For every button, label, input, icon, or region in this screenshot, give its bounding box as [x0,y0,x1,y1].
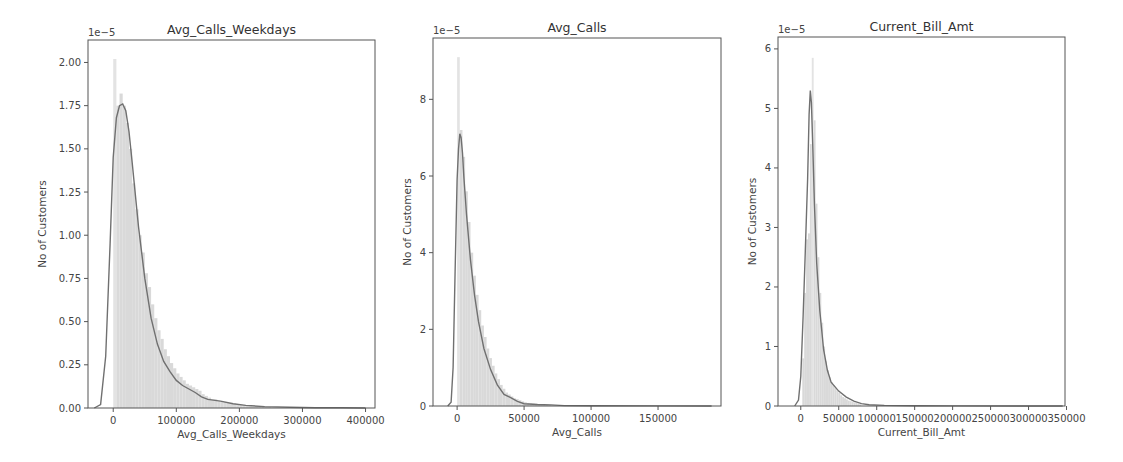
y-tick-label: 8 [420,94,426,105]
histogram-bar [167,356,170,408]
y-axis-ticks: 02468 [420,94,433,412]
x-axis-label: Avg_Calls_Weekdays [177,428,286,441]
x-tick-label: 50000 [508,413,540,424]
histogram-bar [848,401,850,406]
y-tick-label: 2 [765,281,771,292]
histogram-bar [202,394,205,408]
x-tick-label: 300000 [283,415,321,426]
x-axis-label: Current_Bill_Amt [878,426,965,439]
x-tick-label: 150000 [896,413,934,424]
histogram-bar [120,94,123,408]
y-tick-label: 2 [420,324,426,335]
x-tick-label: 250000 [971,413,1009,424]
y-tick-label: 6 [765,43,771,54]
y-tick-label: 0.25 [59,359,81,370]
histogram-bar [835,388,837,406]
histogram-bars [113,59,271,408]
x-tick-label: 350000 [1047,413,1085,424]
y-tick-label: 2.00 [59,57,81,68]
x-tick-label: 50000 [823,413,855,424]
histogram-bar [161,339,164,408]
histogram-bar [833,385,835,406]
histogram-bar [836,391,838,406]
histogram-bar [497,379,500,406]
chart-title: Current_Bill_Amt [869,19,973,34]
histogram-bar [852,402,854,406]
y-tick-label: 1.75 [59,100,81,111]
histogram-bar [808,233,810,406]
y-tick-label: 6 [420,171,426,182]
histogram-bar [173,368,176,408]
histogram-bar [854,402,856,406]
histogram-bar [802,358,804,406]
histogram-bar [217,401,220,408]
x-tick-label: 0 [454,413,460,424]
subplot-avg-calls-weekdays: 0.000.250.500.751.001.251.501.752.00 010… [36,22,385,441]
y-tick-label: 0.75 [59,273,81,284]
histogram-bar [460,130,463,406]
y-axis-ticks: 0.000.250.500.751.001.251.501.752.00 [59,57,88,414]
x-tick-label: 300000 [1009,413,1047,424]
y-tick-label: 1 [765,341,771,352]
histogram-bar [500,385,503,406]
y-tick-label: 4 [765,162,771,173]
y-tick-label: 1.50 [59,143,81,154]
y-axis-label: No of Customers [746,178,758,266]
histogram-bar [846,399,848,406]
histogram-bar [129,149,132,408]
histogram-bar [132,183,135,408]
histogram-bar [804,293,806,406]
y-tick-label: 0 [420,401,426,412]
x-tick-label: 200000 [934,413,972,424]
x-axis-ticks: 0100000200000300000400000 [110,408,385,426]
histogram-bar [176,373,179,408]
y-tick-label: 1.00 [59,230,81,241]
x-tick-label: 100000 [858,413,896,424]
histogram-bar [457,57,460,406]
y-tick-label: 1.25 [59,187,81,198]
x-tick-label: 0 [798,413,804,424]
y-tick-label: 4 [420,247,426,258]
y-axis-label: No of Customers [36,180,48,268]
histogram-bar [840,395,842,406]
histogram-bar [810,144,812,406]
histogram-bar [116,106,119,408]
y-axis-label: No of Customers [401,178,413,266]
subplot-current-bill-amt: 0123456 05000010000015000020000025000030… [746,19,1086,439]
y-tick-label: 3 [765,222,771,233]
figure: 0.000.250.500.751.001.251.501.752.00 010… [0,0,1123,462]
y-offset-label: 1e−5 [433,25,460,36]
histogram-bar [844,398,846,406]
histogram-bar [113,59,116,408]
histogram-bar [814,120,816,406]
y-tick-label: 0 [765,401,771,412]
histogram-bar [806,239,808,406]
y-offset-label: 1e−5 [778,24,805,35]
histogram-bar [179,377,182,408]
histogram-bar [198,391,201,408]
y-tick-label: 0.00 [59,403,81,414]
histogram-bar [831,382,833,406]
chart-title: Avg_Calls [547,20,606,35]
histogram-bar [195,389,198,408]
histogram-bar [492,366,495,406]
histogram-bar [838,393,840,406]
x-tick-label: 100000 [157,415,195,426]
histogram-bar [126,123,129,408]
histogram-bar [123,106,126,408]
histogram-bars [457,57,551,406]
x-tick-label: 400000 [346,415,384,426]
histogram-bar [170,363,173,408]
kde-curve [795,91,1063,406]
y-tick-label: 0.50 [59,316,81,327]
histogram-bar [135,209,138,408]
y-axis-ticks: 0123456 [765,43,778,411]
x-tick-label: 200000 [220,415,258,426]
y-offset-label: 1e−5 [88,27,115,38]
chart-title: Avg_Calls_Weekdays [167,22,296,37]
histogram-bar [842,397,844,406]
x-tick-label: 100000 [572,413,610,424]
x-tick-label: 0 [110,415,116,426]
histogram-bar [183,380,186,408]
subplot-avg-calls: 02468 050000100000150000 Avg_Calls 1e−5 … [401,20,721,439]
